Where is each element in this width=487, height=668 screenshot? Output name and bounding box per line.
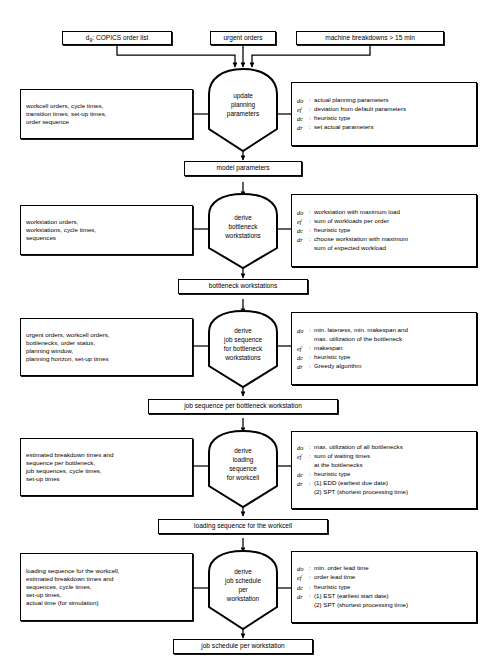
stage-1-input-line: order sequence [26,118,106,126]
stage-2-output-box[interactable]: bottleneck workstations [178,279,308,294]
annotation-row: do : workstation with maximum load [297,208,471,217]
stage-5-input-line: estimated breakdown times and [26,575,120,583]
stage-5-output-label: job schedule per workstation [201,642,285,651]
stage-5-input-line: set-up times, [26,591,120,599]
annotation-row: dc : heuristic type [297,353,471,362]
annotation-value: (1) EST (earliest start date) [314,592,471,601]
annotation-row: dr : set actual parameters [297,123,471,132]
stage-1-annotation-box[interactable]: do : actual planning parameters ef : dev… [291,82,477,146]
stage-4-input-line: job sequences, cycle times, [26,467,113,475]
annotation-continuation: at the bottlenecks [297,461,471,470]
stage-3-input-line: planning window, [26,347,110,355]
annotation-value: min. lateness, min. makespan and [314,326,471,335]
stage-3-output-box[interactable]: job sequence per bottleneck workstation [148,399,338,414]
annotation-key: dr [297,592,309,601]
stage-4-input-line: estimated breakdown times and [26,451,113,459]
stage-1-output-box[interactable]: model parameters [184,161,302,176]
process-shape-icon [206,66,280,154]
stage-4-process[interactable]: derive loading sequence for workcell [206,428,280,510]
annotation-key: do [297,96,309,105]
process-shape-icon [206,191,280,271]
stage-5-input-box[interactable]: loading sequence for the workcell, estim… [20,553,193,621]
annotation-row: ef : sum of waiting times [297,452,471,461]
annotation-value: workstation with maximum load [314,208,471,217]
annotation-value: actual planning parameters [314,96,471,105]
stage-4-input-box[interactable]: estimated breakdown times and sequence p… [20,438,193,496]
annotation-row: ef : sum of workloads per order [297,217,471,226]
annotation-key: dc [297,226,309,235]
annotation-row: dr : (1) EDD (earliest due date) [297,479,471,488]
stage-5-input-line: sequences, cycle times, [26,583,120,591]
annotation-row: do : min. order lead time [297,564,471,573]
input-box-copics-order-list[interactable]: dg: COPICS order list [62,31,172,45]
annotation-value: makespan [314,344,471,353]
stage-1-process[interactable]: update planning parameters [206,66,280,154]
stage-5-input-line: loading sequence for the workcell, [26,567,120,575]
stage-5-annotation-box[interactable]: do : min. order lead time ef : order lea… [291,551,477,623]
annotation-key: dc [297,470,309,479]
annotation-row: ef : order lead time [297,573,471,582]
stage-4-input-line: sequence per bottleneck, [26,459,113,467]
annotation-continuation: max. utilization of the bottleneck [297,335,471,344]
flowchart-canvas: dg: COPICS order list urgent orders mach… [0,0,487,668]
annotation-key: ef [297,452,309,461]
annotation-key: ef [297,217,309,226]
annotation-value: heuristic type [314,583,471,592]
annotation-value: heuristic type [314,470,471,479]
stage-3-input-line: planning horizon, set-up times [26,355,110,363]
annotation-value: heuristic type [314,114,471,123]
annotation-key: ef [297,573,309,582]
input-box-machine-breakdowns-label: machine breakdowns > 15 min [325,34,415,43]
annotation-key: dr [297,235,309,244]
stage-5-process[interactable]: derive job schedule per workstation [206,548,280,632]
stage-3-input-box[interactable]: urgent orders, workcell orders, bottlene… [20,318,193,376]
annotation-key: dr [297,123,309,132]
stage-2-input-line: workstation orders, [26,218,96,226]
annotation-value: heuristic type [314,353,471,362]
annotation-continuation: (2) SPT (shortest processing time) [297,488,471,497]
annotation-key: dc [297,114,309,123]
process-shape-icon [206,308,280,390]
stage-4-output-label: loading sequence for the workcell [194,522,292,531]
stage-5-output-box[interactable]: job schedule per workstation [173,639,313,654]
annotation-row: dc : heuristic type [297,583,471,592]
annotation-row: dc : heuristic type [297,470,471,479]
annotation-row: do : max. utilization of all bottlenecks [297,443,471,452]
stage-4-annotation-box[interactable]: do : max. utilization of all bottlenecks… [291,431,477,509]
annotation-row: dr : (1) EST (earliest start date) [297,592,471,601]
stage-4-output-box[interactable]: loading sequence for the workcell [158,519,328,534]
stage-3-process[interactable]: derive job sequence for bottleneck works… [206,308,280,390]
annotation-key: ef [297,344,309,353]
input-box-urgent-orders[interactable]: urgent orders [210,31,276,45]
annotation-key: do [297,208,309,217]
annotation-continuation: (2) SPT (shortest processing time) [297,601,471,610]
stage-3-annotation-box[interactable]: do : min. lateness, min. makespan and ma… [291,312,477,385]
copics-text: : COPICS order list [92,34,148,41]
stage-4-input-line: set-up times [26,475,113,483]
annotation-key: dr [297,479,309,488]
process-shape-icon [206,428,280,510]
annotation-key: dr [297,362,309,371]
annotation-key: dc [297,353,309,362]
annotation-row: dc : heuristic type [297,114,471,123]
stage-2-process[interactable]: derive bottleneck workstations [206,191,280,271]
stage-1-input-line: workcell orders, cycle times, [26,102,106,110]
process-shape-icon [206,548,280,632]
annotation-row: ef : deviation from default parameters [297,105,471,114]
stage-2-output-label: bottleneck workstations [209,282,278,291]
annotation-value: deviation from default parameters [314,105,471,114]
annotation-key: ef [297,105,309,114]
input-box-urgent-orders-label: urgent orders [223,34,262,43]
annotation-key: do [297,326,309,335]
stage-2-annotation-box[interactable]: do : workstation with maximum load ef : … [291,194,477,267]
input-box-copics-label: dg: COPICS order list [86,34,149,43]
stage-1-input-line: transition times, set-up times, [26,110,106,118]
annotation-key: do [297,564,309,573]
annotation-row: dc : heuristic type [297,226,471,235]
annotation-value: Greedy algorithm [314,362,471,371]
stage-2-input-box[interactable]: workstation orders, workstations, cycle … [20,205,193,255]
stage-3-output-label: job sequence per bottleneck workstation [184,402,302,411]
stage-1-input-box[interactable]: workcell orders, cycle times, transition… [20,89,193,139]
annotation-row: dr : choose workstation with maximum [297,235,471,244]
input-box-machine-breakdowns[interactable]: machine breakdowns > 15 min [296,31,444,45]
